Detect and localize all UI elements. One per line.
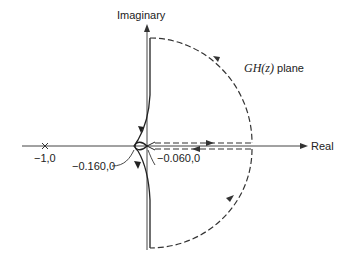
- leader-0160: [112, 150, 134, 166]
- plot-svg: [0, 0, 341, 265]
- real-axis-label: Real: [311, 141, 334, 152]
- nyquist-contour-solid: [134, 38, 155, 248]
- real-axis: [22, 143, 308, 149]
- nyquist-diagram: Imaginary Real GH(z) plane −1,0 −0.160,0…: [0, 0, 341, 265]
- plane-label: GH(z) plane: [244, 62, 304, 74]
- leader-0060: [148, 150, 155, 165]
- point-label-neg0060: −0.060,0: [157, 153, 200, 164]
- point-label-neg1: −1,0: [34, 153, 56, 164]
- imaginary-axis-label: Imaginary: [117, 10, 165, 21]
- plane-function: GH(z): [244, 61, 274, 75]
- nyquist-contour-dashed: [150, 38, 252, 248]
- plane-suffix: plane: [274, 62, 304, 74]
- point-label-neg0160: −0.160,0: [72, 161, 115, 172]
- imaginary-axis: [144, 24, 150, 250]
